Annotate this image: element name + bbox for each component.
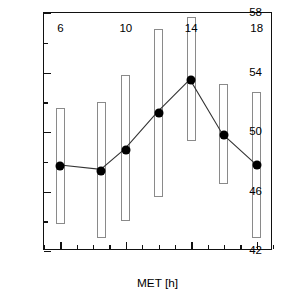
y-tick-minor [44,221,48,222]
x-tick-minor [77,245,78,249]
y-tick-major [44,13,51,14]
y-tick-major [44,132,51,133]
x-tick-minor [44,245,45,249]
x-axis-title: MET [h] [43,276,272,290]
x-tick-minor [224,245,225,249]
x-tick-label: 18 [250,23,263,35]
plot-area: 4246505458 6101418 [43,12,272,250]
x-tick-minor [142,245,143,249]
x-tick-major [60,242,61,249]
y-tick-label: 54 [249,67,262,79]
x-tick-major [126,242,127,249]
y-tick-label: 42 [249,245,262,257]
y-tick-label: 46 [249,186,262,198]
x-tick-label: 10 [119,23,132,35]
x-tick-label: 6 [57,23,63,35]
x-tick-minor [208,245,209,249]
series-polyline [44,13,271,249]
x-tick-minor [175,245,176,249]
chart-figure: Thermotolerance of PS II [°C] 4246505458… [0,0,282,297]
y-tick-minor [44,162,48,163]
y-tick-major [44,73,51,74]
y-tick-label: 58 [249,7,262,19]
y-tick-minor [44,43,48,44]
data-point-marker [121,145,130,154]
y-tick-minor [44,102,48,103]
data-point-marker [219,130,228,139]
data-point-marker [252,160,261,169]
x-tick-major [191,242,192,249]
data-point-marker [154,108,163,117]
y-tick-major [44,192,51,193]
x-tick-label: 14 [185,23,198,35]
data-point-marker [97,166,106,175]
series-line [60,79,255,169]
x-tick-minor [240,245,241,249]
x-tick-minor [159,245,160,249]
data-point-marker [187,75,196,84]
y-tick-label: 50 [249,126,262,138]
plot-canvas [44,13,271,249]
x-tick-minor [273,245,274,249]
x-tick-minor [109,245,110,249]
data-point-marker [56,162,65,171]
x-tick-minor [93,245,94,249]
y-tick-major [44,251,51,252]
y-axis-title-container: Thermotolerance of PS II [°C] [2,12,18,250]
